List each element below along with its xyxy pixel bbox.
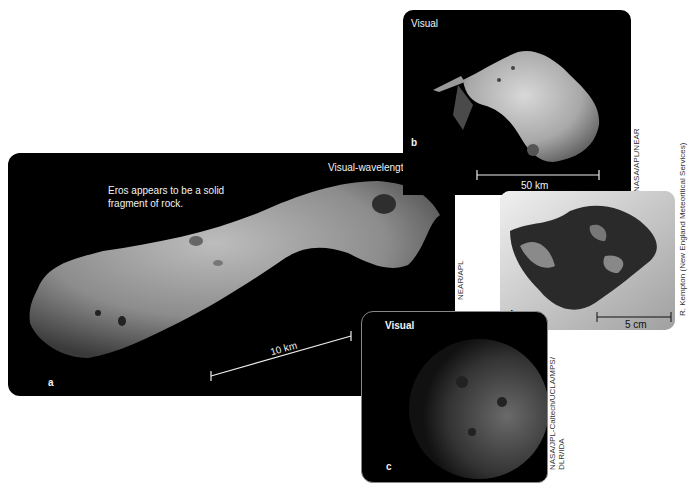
credit-panel-c: NASA/JPL-Caltech/UCLA/MPS/ DLR/IDA — [548, 357, 566, 470]
scale-bar-10km — [211, 331, 351, 381]
panel-title: Visual — [411, 18, 438, 29]
scale-bar-label: 50 km — [521, 180, 548, 191]
panel-letter: c — [386, 461, 392, 472]
mathilde-asteroid-image — [403, 10, 631, 195]
panel-letter: a — [48, 377, 54, 388]
scale-bar-label: 5 cm — [625, 319, 647, 330]
panel-caption: Eros appears to be a solid fragment of r… — [108, 184, 238, 210]
panel-letter: b — [411, 137, 417, 148]
credit-panel-b: NASA/APL/NEAR — [632, 128, 641, 192]
meteorite-image — [500, 191, 675, 330]
panel-c-vesta: Visual c — [361, 311, 548, 483]
credit-panel-d: R. Kempton (New England Meteoritical Ser… — [678, 143, 687, 316]
panel-title: Visual — [385, 320, 414, 331]
vesta-asteroid-image — [362, 312, 547, 482]
panel-d-meteorite: d 5 cm — [500, 191, 675, 330]
credit-line-2: DLR/IDA — [557, 438, 566, 470]
credit-panel-a: NEAR/APL — [456, 260, 465, 300]
credit-line-1: NASA/JPL-Caltech/UCLA/MPS/ — [548, 357, 557, 470]
panel-b-mathilde: Visual b 50 km — [403, 10, 631, 195]
scale-bar-50km — [477, 170, 599, 180]
